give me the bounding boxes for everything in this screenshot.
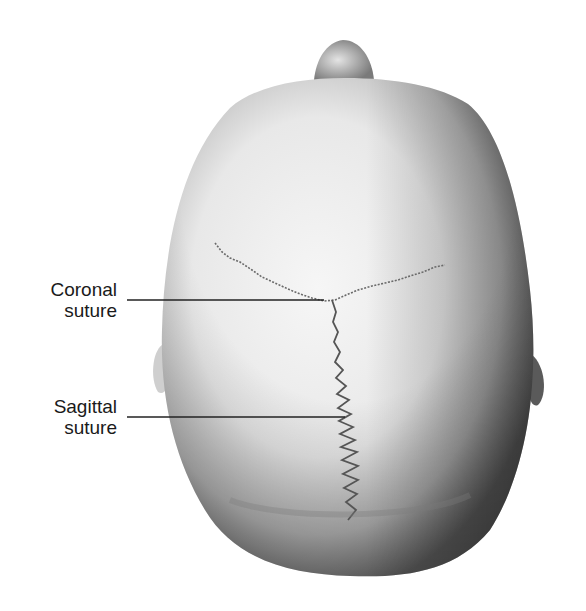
sagittal-suture-label: Sagittal suture	[0, 396, 117, 438]
nose-shape	[314, 40, 374, 80]
coronal-label-line2: suture	[0, 300, 117, 321]
coronal-label-line1: Coronal	[0, 279, 117, 300]
sagittal-label-line2: suture	[0, 417, 117, 438]
sagittal-label-line1: Sagittal	[0, 396, 117, 417]
coronal-suture-label: Coronal suture	[0, 279, 117, 321]
